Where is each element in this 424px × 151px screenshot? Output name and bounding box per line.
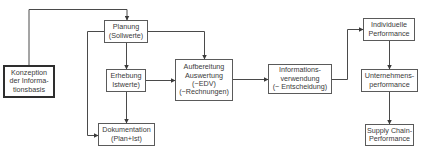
node-konzeption: Konzeption der Informa- tionsbasis	[3, 65, 55, 98]
edge-planung-aufbereitung	[148, 32, 205, 60]
flow-diagram: Konzeption der Informa- tionsbasis Planu…	[0, 0, 424, 151]
edge-planung-dokumentation	[88, 32, 105, 136]
node-aufbereitung: Aufbereitung Auswertung (~EDV) (~Rechnun…	[175, 59, 233, 101]
node-label-line: (~ Entscheidung)	[273, 83, 328, 91]
node-label-line: Performance	[369, 135, 410, 143]
node-planung: Planung (Sollwerte)	[104, 20, 148, 43]
node-unternehmensperformance: Unternehmens- performance	[361, 69, 418, 92]
node-label-line: tionsbasis	[13, 86, 45, 94]
edge-informationsverwendung-individuelle	[332, 30, 363, 80]
node-individuelle-performance: Individuelle Performance	[363, 18, 415, 41]
node-label-line: (~Rechnungen)	[179, 88, 229, 96]
node-informationsverwendung: Informations- verwendung (~ Entscheidung…	[268, 64, 332, 94]
node-erhebung: Erhebung Istwerte)	[106, 69, 146, 92]
node-label-line: Performance	[368, 30, 409, 38]
node-label-line: (Sollwerte)	[109, 32, 143, 40]
node-label-line: (Plan+Ist)	[111, 135, 142, 143]
node-dokumentation: Dokumentation (Plan+Ist)	[98, 123, 155, 146]
node-label-line: Istwerte)	[112, 81, 140, 89]
node-supply-chain-performance: Supply Chain- Performance	[365, 124, 414, 146]
node-label-line: performance	[369, 81, 409, 89]
